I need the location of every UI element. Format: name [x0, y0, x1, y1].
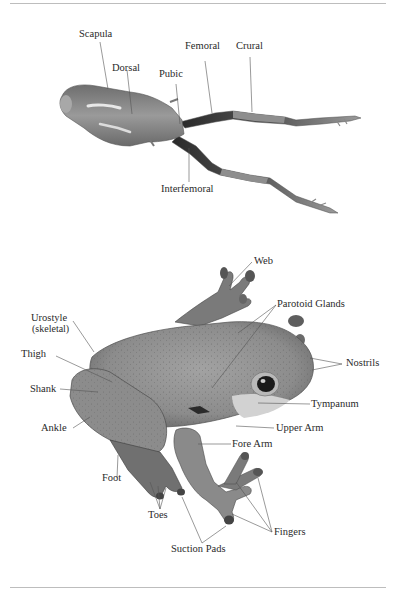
label-web: Web: [254, 255, 273, 267]
label-urostyle-skeletal: (skeletal): [32, 323, 69, 335]
label-scapula: Scapula: [79, 28, 112, 40]
label-interfemoral: Interfemoral: [161, 183, 213, 195]
label-crural: Crural: [236, 40, 263, 52]
label-tympanum: Tympanum: [311, 398, 359, 410]
label-pubic: Pubic: [159, 68, 183, 80]
label-upper-arm: Upper Arm: [276, 422, 324, 434]
label-parotoid-glands: Parotoid Glands: [277, 298, 345, 310]
frog-illustrations: [0, 0, 406, 590]
label-toes: Toes: [148, 509, 168, 521]
bottom-divider: [10, 587, 386, 588]
label-shank: Shank: [30, 383, 56, 395]
label-dorsal: Dorsal: [112, 62, 140, 74]
label-ankle: Ankle: [41, 422, 67, 434]
label-foot: Foot: [102, 472, 121, 484]
label-thigh: Thigh: [21, 348, 46, 360]
label-fore-arm: Fore Arm: [232, 438, 273, 450]
label-nostrils: Nostrils: [346, 357, 379, 369]
label-fingers: Fingers: [274, 526, 306, 538]
label-femoral: Femoral: [185, 40, 220, 52]
label-suction-pads: Suction Pads: [171, 543, 226, 555]
